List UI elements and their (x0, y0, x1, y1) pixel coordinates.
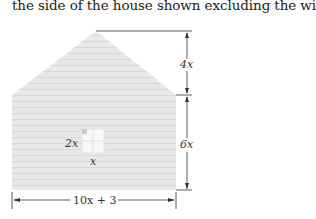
width-label: 10x + 3 (73, 194, 116, 207)
window (82, 129, 104, 153)
window-width-label: x (90, 155, 97, 168)
house-figure: 2x x 4x 6x 10x + 3 (0, 0, 316, 219)
roof-height-label: 4x (179, 58, 194, 71)
window-height-label: 2x (64, 137, 79, 150)
wall-height-label: 6x (180, 138, 194, 151)
roof (12, 31, 176, 95)
